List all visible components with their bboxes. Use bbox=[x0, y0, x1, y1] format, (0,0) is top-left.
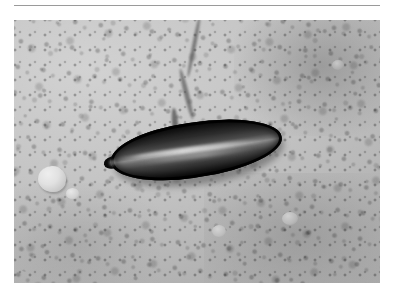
photo-plate bbox=[14, 20, 380, 283]
page-root bbox=[0, 0, 394, 295]
pebble-small-upper-right bbox=[332, 60, 344, 70]
pebble-small-left bbox=[66, 188, 79, 199]
pebble-small-lower-center bbox=[212, 225, 226, 237]
light-pebble bbox=[38, 166, 66, 192]
horizontal-rule bbox=[14, 5, 380, 6]
pebble-small-lower-right bbox=[282, 212, 298, 225]
